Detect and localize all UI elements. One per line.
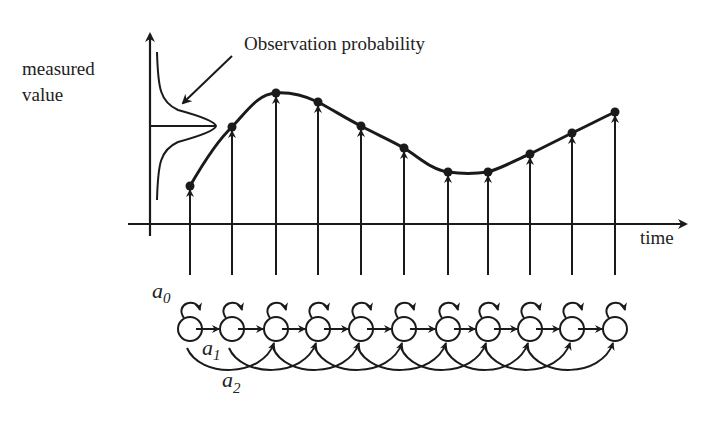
ylabel-line2: value (22, 84, 63, 105)
xlabel-time: time (640, 227, 674, 248)
a0-label: a0 (152, 278, 171, 306)
data-points (186, 89, 620, 191)
self-loops (181, 303, 625, 318)
hmm-diagram: Observation probability measured value t… (0, 0, 710, 423)
measured-curve (190, 93, 615, 186)
emission-arrows (190, 97, 615, 275)
observation-pointer-arrow (183, 56, 232, 103)
a2-label: a2 (222, 367, 241, 396)
skip-transitions (187, 343, 613, 370)
a1-label: a1 (202, 335, 221, 363)
ylabel-line1: measured (22, 58, 95, 79)
axes (128, 34, 686, 236)
observation-label: Observation probability (244, 33, 425, 54)
